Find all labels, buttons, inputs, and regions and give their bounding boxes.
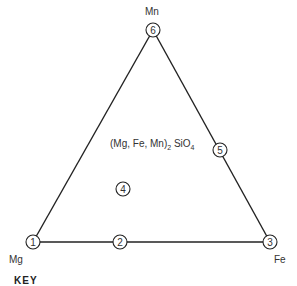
edge-mn-mg [33,30,153,242]
formula-sub2: 4 [191,144,195,151]
point-label-3: 3 [267,237,273,248]
point-label-5: 5 [217,145,223,156]
vertex-label-fe: Fe [274,254,286,265]
key-heading: KEY [14,275,38,286]
vertex-label-mg: Mg [9,254,23,265]
point-label-4: 4 [120,184,126,195]
point-label-6: 6 [150,25,156,36]
formula-label: (Mg, Fe, Mn)2 SiO4 [110,138,195,151]
formula-prefix: (Mg, Fe, Mn) [110,138,167,149]
formula-mid: SiO [171,138,190,149]
point-label-2: 2 [117,237,123,248]
vertex-label-mn: Mn [145,6,159,17]
point-label-1: 1 [30,237,36,248]
edge-mn-fe [153,30,270,242]
